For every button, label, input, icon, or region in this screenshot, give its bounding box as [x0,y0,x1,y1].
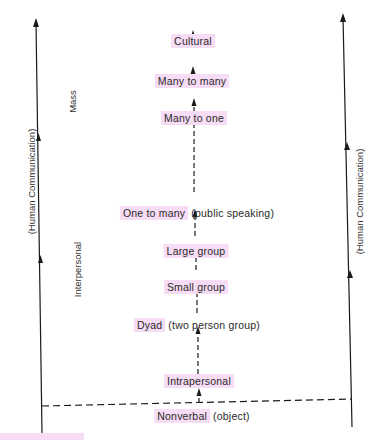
arrow-up-icon [36,133,41,141]
level-intrapersonal: Intrapersonal [164,374,234,388]
level-many-to-one: Many to one [161,111,227,125]
level-cultural: Cultural [171,34,215,48]
interpersonal-category-label: Interpersonal [72,230,83,310]
level-dyad: Dyad (two person group) [134,318,260,332]
level-large-group: Large group [164,244,229,258]
right-side-label: (Human Communication) [354,142,365,262]
level-nonverbal: Nonverbal (object) [154,409,249,423]
arrow-up-icon [191,66,196,74]
baseline [42,399,352,406]
arrow-up-icon [38,255,43,263]
arrow-up-icon [192,98,197,106]
arrow-up-icon [33,18,39,27]
arrow-up-icon [340,13,346,22]
arrow-up-icon [344,142,350,150]
right-axis [340,13,353,427]
arrow-up-icon [197,388,202,396]
highlight-mark [0,433,84,440]
level-many-to-many: Many to many [155,74,229,88]
arrow-up-icon [347,270,353,278]
mass-category-label: Mass [67,82,78,122]
level-one-to-many: One to many (public speaking) [120,206,274,220]
level-small-group: Small group [164,280,228,294]
left-side-label: (Human Communication) [26,122,37,242]
